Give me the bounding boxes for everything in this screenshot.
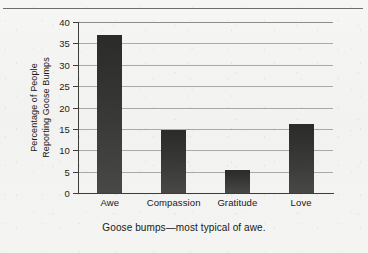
bar-gratitude [225, 170, 250, 193]
y-axis-title: Percentage of People Reporting Goose Bum… [28, 22, 52, 193]
top-horizontal-rule [3, 8, 363, 9]
figure-caption: Goose bumps—most typical of awe. [0, 222, 368, 233]
figure-page: Percentage of People Reporting Goose Bum… [0, 0, 368, 253]
y-axis-title-line1: Percentage of People [29, 57, 41, 158]
x-label-awe: Awe [101, 197, 120, 208]
y-tick-label: 10 [59, 145, 70, 156]
bar-love [289, 124, 314, 193]
y-tick-label: 30 [59, 59, 70, 70]
y-tick-label: 0 [65, 188, 70, 199]
chart-plot-area [78, 22, 333, 193]
gridline [78, 22, 333, 23]
y-tick-label: 20 [59, 102, 70, 113]
bar-compassion [161, 130, 186, 193]
x-axis-line [78, 193, 334, 194]
bar-awe [97, 35, 122, 193]
y-axis-title-line2: Reporting Goose Bumps [40, 57, 52, 158]
y-tick-label: 40 [59, 17, 70, 28]
y-tick-label: 15 [59, 123, 70, 134]
x-label-gratitude: Gratitude [217, 197, 257, 208]
y-tick-label: 5 [65, 166, 70, 177]
y-tick-label: 25 [59, 81, 70, 92]
x-label-love: Love [291, 197, 312, 208]
y-tick-label: 35 [59, 38, 70, 49]
x-label-compassion: Compassion [147, 197, 201, 208]
y-axis-line [78, 22, 79, 193]
